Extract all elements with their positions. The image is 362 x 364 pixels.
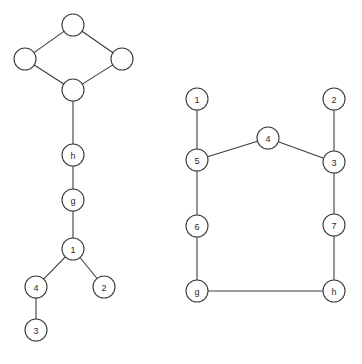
- graph-node[interactable]: 5: [186, 149, 208, 171]
- graph-node[interactable]: h: [323, 280, 345, 302]
- graph-node[interactable]: [14, 48, 36, 70]
- graph-node[interactable]: 3: [25, 319, 47, 341]
- node-label: 4: [33, 283, 38, 293]
- node-label: 7: [331, 221, 336, 231]
- graph-node[interactable]: g: [186, 280, 208, 302]
- node-label: h: [331, 287, 336, 297]
- graph-node[interactable]: 1: [62, 238, 84, 260]
- node-label: 3: [331, 158, 336, 168]
- edges-layer: [34, 31, 334, 319]
- graph-node[interactable]: [62, 14, 84, 36]
- graph-node[interactable]: 1: [186, 88, 208, 110]
- graph-edge: [80, 258, 97, 279]
- node-label: g: [194, 287, 199, 297]
- graph-node[interactable]: h: [62, 144, 84, 166]
- nodes-layer: hg14231245367gh: [14, 14, 345, 341]
- graph-node[interactable]: 2: [323, 88, 345, 110]
- node-label: 1: [70, 245, 75, 255]
- graph-edge: [44, 257, 66, 279]
- node-circle[interactable]: [111, 48, 133, 70]
- graph-edge: [34, 65, 64, 84]
- node-label: 2: [331, 95, 336, 105]
- node-label: 6: [194, 222, 199, 232]
- node-label: 3: [33, 326, 38, 336]
- graph-edge: [82, 65, 112, 84]
- graph-edge: [82, 31, 113, 52]
- node-label: 2: [101, 283, 106, 293]
- graph-node[interactable]: [111, 48, 133, 70]
- node-label: 4: [265, 134, 270, 144]
- graph-node[interactable]: 3: [323, 151, 345, 173]
- graph-node[interactable]: g: [62, 189, 84, 211]
- node-label: 1: [194, 95, 199, 105]
- node-label: g: [70, 196, 75, 206]
- node-circle[interactable]: [14, 48, 36, 70]
- right-graph-nodes: 1245367gh: [186, 88, 345, 302]
- diagram-canvas: hg14231245367gh: [0, 0, 362, 364]
- graph-edge: [34, 31, 64, 52]
- graph-node[interactable]: 2: [93, 276, 115, 298]
- graph-edge: [208, 141, 258, 156]
- node-label: h: [70, 151, 75, 161]
- graph-node[interactable]: 6: [186, 215, 208, 237]
- node-circle[interactable]: [62, 14, 84, 36]
- graph-node[interactable]: 4: [257, 127, 279, 149]
- graph-node[interactable]: 4: [25, 276, 47, 298]
- node-circle[interactable]: [62, 79, 84, 101]
- graph-diagram-svg: hg14231245367gh: [0, 0, 362, 364]
- graph-edge: [278, 142, 323, 158]
- graph-node[interactable]: [62, 79, 84, 101]
- node-label: 5: [194, 156, 199, 166]
- graph-node[interactable]: 7: [323, 214, 345, 236]
